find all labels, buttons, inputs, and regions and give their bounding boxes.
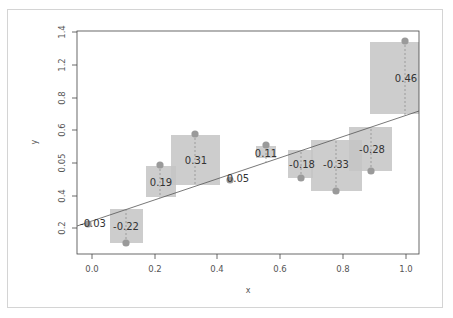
y-tick-label: 0.2 <box>57 221 67 235</box>
x-tick-label: 0.0 <box>85 264 99 274</box>
residual-label: 0.05 <box>227 173 249 184</box>
x-axis: 0.00.20.40.60.81.0 <box>85 254 413 274</box>
x-tick-label: 1.0 <box>399 264 413 274</box>
residual-label: -0.33 <box>323 159 349 170</box>
y-tick-label: 0.8 <box>57 91 67 105</box>
residual-label: -0.03 <box>80 218 106 229</box>
y-tick-label: 1.4 <box>57 25 67 39</box>
data-point <box>401 37 408 44</box>
x-axis-title: x <box>246 286 251 295</box>
x-tick-label: 0.2 <box>148 264 162 274</box>
residual-label: 0.31 <box>185 155 207 166</box>
data-point <box>156 161 163 168</box>
x-tick-label: 0.6 <box>273 264 287 274</box>
residual-label: 0.19 <box>150 177 172 188</box>
x-tick-label: 0.8 <box>336 264 350 274</box>
y-tick-label: 0.05 <box>57 154 67 173</box>
y-axis-title: y <box>30 139 39 144</box>
y-tick-label: 0.6 <box>57 123 67 137</box>
data-point <box>191 130 198 137</box>
y-tick-label: 0.4 <box>57 189 67 203</box>
residual-scatter-chart: -0.03-0.220.190.310.050.11-0.18-0.33-0.2… <box>0 0 453 318</box>
residual-label: -0.22 <box>113 221 139 232</box>
data-point <box>332 187 339 194</box>
data-point <box>297 174 304 181</box>
x-tick-label: 0.4 <box>210 264 224 274</box>
data-point <box>122 239 129 246</box>
residual-label: -0.28 <box>359 144 385 155</box>
data-point <box>367 167 374 174</box>
y-axis: 0.20.40.050.60.81.21.4 <box>57 25 77 235</box>
residual-label: 0.46 <box>395 73 417 84</box>
residual-label: 0.11 <box>255 148 277 159</box>
y-tick-label: 1.2 <box>57 58 67 72</box>
residual-label: -0.18 <box>289 159 315 170</box>
